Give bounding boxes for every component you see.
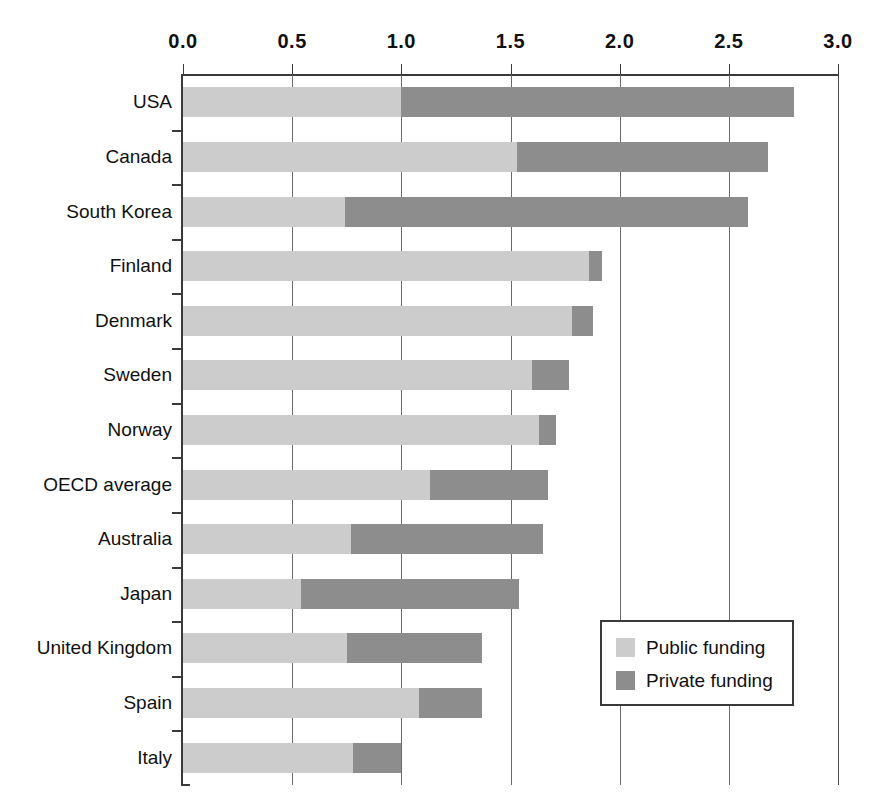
bar-segment-public: [183, 197, 345, 227]
category-label: Italy: [2, 747, 172, 769]
bar-segment-private: [532, 360, 569, 390]
x-tick-label: 0.5: [278, 30, 307, 53]
category-label: Finland: [2, 255, 172, 277]
category-label: United Kingdom: [2, 637, 172, 659]
x-tick-label: 3.0: [823, 30, 852, 53]
y-tick-mark: [172, 239, 182, 241]
legend-swatch-public-icon: [616, 638, 635, 657]
bar-row: [183, 688, 482, 718]
y-tick-mark: [172, 184, 182, 186]
x-tick-label: 2.0: [605, 30, 634, 53]
category-labels: USACanadaSouth KoreaFinlandDenmarkSweden…: [0, 0, 172, 802]
category-label: Sweden: [2, 364, 172, 386]
chart-legend: Public funding Private funding: [600, 620, 794, 706]
x-tick-label: 2.5: [714, 30, 743, 53]
bar-segment-public: [183, 360, 532, 390]
y-tick-mark: [172, 457, 182, 459]
bar-segment-private: [351, 524, 543, 554]
bar-row: [183, 306, 593, 336]
category-label: South Korea: [2, 201, 172, 223]
bar-row: [183, 579, 519, 609]
bar-segment-private: [572, 306, 594, 336]
y-tick-mark: [172, 567, 182, 569]
bar-segment-public: [183, 306, 572, 336]
bar-segment-private: [353, 743, 401, 773]
bar-row: [183, 524, 543, 554]
bar-segment-public: [183, 579, 301, 609]
category-label: Australia: [2, 528, 172, 550]
bar-segment-public: [183, 470, 430, 500]
category-label: OECD average: [2, 474, 172, 496]
y-tick-mark: [172, 676, 182, 678]
stacked-bar-chart: 0.00.51.01.52.02.53.0 USACanadaSouth Kor…: [0, 0, 874, 802]
y-tick-mark: [172, 512, 182, 514]
bar-segment-public: [183, 87, 401, 117]
category-label: USA: [2, 91, 172, 113]
bar-row: [183, 415, 556, 445]
bar-row: [183, 142, 768, 172]
category-label: Spain: [2, 692, 172, 714]
y-tick-mark: [172, 348, 182, 350]
bar-segment-private: [517, 142, 768, 172]
bar-row: [183, 87, 794, 117]
bar-segment-private: [347, 633, 482, 663]
legend-item-public: Public funding: [616, 631, 792, 664]
y-tick-mark: [172, 403, 182, 405]
bar-row: [183, 251, 602, 281]
bar-segment-public: [183, 743, 353, 773]
bar-segment-public: [183, 688, 419, 718]
y-tick-mark: [172, 621, 182, 623]
bar-row: [183, 360, 569, 390]
y-tick-mark: [172, 293, 182, 295]
x-tick-label: 1.0: [387, 30, 416, 53]
bar-segment-private: [419, 688, 482, 718]
legend-label-private: Private funding: [646, 670, 773, 692]
bar-row: [183, 470, 548, 500]
x-tick-mark: [838, 64, 839, 75]
x-tick-label: 1.5: [496, 30, 525, 53]
category-label: Japan: [2, 583, 172, 605]
legend-swatch-private-icon: [616, 671, 635, 690]
legend-item-private: Private funding: [616, 664, 792, 697]
gridline: [838, 75, 839, 785]
category-label: Denmark: [2, 310, 172, 332]
bar-segment-private: [589, 251, 602, 281]
bar-segment-private: [301, 579, 519, 609]
bar-segment-private: [430, 470, 548, 500]
y-tick-mark: [172, 130, 182, 132]
bar-row: [183, 197, 748, 227]
bar-segment-public: [183, 415, 539, 445]
x-tick-label: 0.0: [168, 30, 197, 53]
y-tick-mark: [172, 730, 182, 732]
bar-segment-public: [183, 524, 351, 554]
bar-row: [183, 633, 482, 663]
bar-segment-public: [183, 251, 589, 281]
category-label: Norway: [2, 419, 172, 441]
category-label: Canada: [2, 146, 172, 168]
bar-segment-public: [183, 633, 347, 663]
legend-label-public: Public funding: [646, 637, 765, 659]
bar-row: [183, 743, 401, 773]
bar-segment-private: [345, 197, 749, 227]
bar-segment-public: [183, 142, 517, 172]
bar-segment-private: [401, 87, 794, 117]
bar-segment-private: [539, 415, 556, 445]
